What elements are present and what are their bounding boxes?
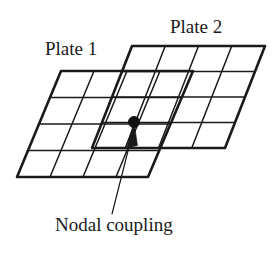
plate-1-label: Plate 1 [45, 39, 97, 58]
plate-2-mesh [92, 46, 265, 148]
plate-2-label: Plate 2 [170, 17, 222, 36]
figure-nodal-coupling: Plate 1 Plate 2 Nodal coupling [0, 0, 274, 257]
coupling-node-dot [129, 117, 140, 128]
nodal-coupling-label: Nodal coupling [55, 215, 173, 234]
